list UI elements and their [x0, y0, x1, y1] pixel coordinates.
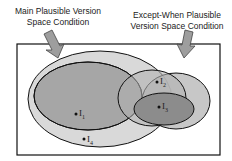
point-i4: I4 [87, 134, 93, 149]
version-space-diagram [0, 0, 232, 161]
point-i1: I1 [79, 108, 85, 123]
point-i2: I2 [160, 76, 166, 91]
point-i3: I3 [162, 101, 168, 116]
